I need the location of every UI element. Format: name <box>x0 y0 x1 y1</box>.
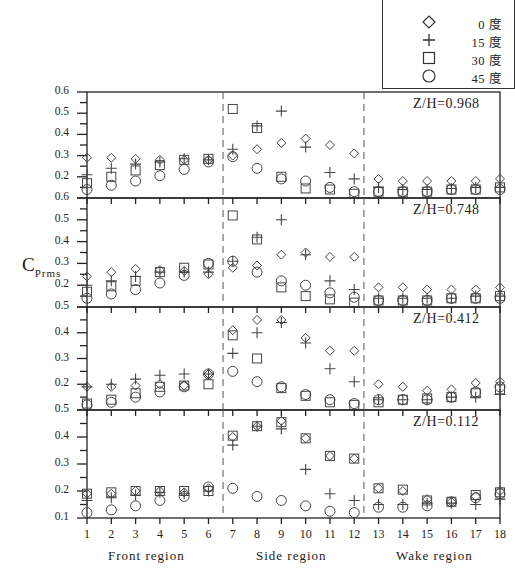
x-tick-label: 12 <box>344 527 364 542</box>
panel-label: Z/H=0.112 <box>413 414 479 430</box>
y-tick-label: 0.3 <box>41 456 69 468</box>
legend-item-30deg: 30 度 <box>383 48 514 68</box>
region-label-wake: Wake region <box>396 548 473 564</box>
legend: 0 度 15 度 30 度 45 度 <box>382 0 515 89</box>
y-tick-label: 0.2 <box>41 483 69 495</box>
y-tick-label: 0.6 <box>41 84 69 96</box>
x-tick-label: 5 <box>174 527 194 542</box>
x-tick-label: 10 <box>296 527 316 542</box>
x-tick-label: 11 <box>320 527 340 542</box>
y-tick-label: 0.4 <box>41 325 69 337</box>
y-tick-label: 0.4 <box>41 126 69 138</box>
x-tick-label: 2 <box>101 527 121 542</box>
x-tick-label: 6 <box>198 527 218 542</box>
y-tick-label: 0.3 <box>41 255 69 267</box>
panel-label: Z/H=0.412 <box>413 311 479 327</box>
x-tick-label: 15 <box>417 527 437 542</box>
y-tick-label: 0.5 <box>41 212 69 224</box>
square-icon <box>421 50 437 66</box>
y-tick-label: 0.3 <box>41 351 69 363</box>
x-tick-label: 4 <box>150 527 170 542</box>
region-label-front: Front region <box>108 548 185 564</box>
y-tick-label: 0.5 <box>41 105 69 117</box>
y-tick-label: 0.6 <box>41 190 69 202</box>
y-tick-label: 0.1 <box>41 510 69 522</box>
x-tick-label: 7 <box>223 527 243 542</box>
legend-item-0deg: 0 度 <box>383 12 514 32</box>
diamond-icon <box>421 14 437 30</box>
panel-label: Z/H=0.748 <box>413 202 479 218</box>
region-label-side: Side region <box>256 548 327 564</box>
circle-icon <box>421 68 437 84</box>
x-tick-label: 8 <box>247 527 267 542</box>
legend-item-45deg: 45 度 <box>383 66 514 86</box>
y-axis-title-main: C <box>22 254 35 275</box>
x-tick-label: 9 <box>271 527 291 542</box>
y-tick-label: 0.3 <box>41 148 69 160</box>
x-tick-label: 17 <box>466 527 486 542</box>
y-tick-label: 0.2 <box>41 277 69 289</box>
x-tick-label: 1 <box>77 527 97 542</box>
y-tick-label: 0.5 <box>41 402 69 414</box>
plus-icon <box>421 32 437 48</box>
y-tick-label: 0.4 <box>41 234 69 246</box>
x-tick-label: 13 <box>369 527 389 542</box>
panel-label: Z/H=0.968 <box>413 96 479 112</box>
legend-label: 45 度 <box>471 68 502 87</box>
y-tick-label: 0.2 <box>41 169 69 181</box>
x-tick-label: 16 <box>441 527 461 542</box>
y-tick-label: 0.4 <box>41 429 69 441</box>
y-tick-label: 0.2 <box>41 376 69 388</box>
x-tick-label: 14 <box>393 527 413 542</box>
y-tick-label: 0.5 <box>41 299 69 311</box>
legend-item-15deg: 15 度 <box>383 30 514 50</box>
x-tick-label: 3 <box>126 527 146 542</box>
x-tick-label: 18 <box>490 527 510 542</box>
